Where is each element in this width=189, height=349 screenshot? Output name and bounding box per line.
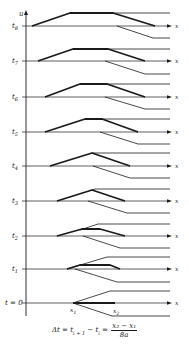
x-axis-arrow-icon (167, 301, 172, 305)
x-axis-arrow-icon (167, 130, 172, 134)
formula-lhs: Δt = t (52, 326, 73, 334)
time-step-formula: Δt = ti + 1 − ti = x₂ − x₁8a (0, 322, 189, 339)
time-label-row-5: t5 (12, 128, 18, 137)
time-label-row-2: t2 (12, 232, 18, 241)
formula-equals: = (100, 326, 110, 334)
x-axis-label: x (175, 162, 179, 169)
time-label-row-1: t1 (12, 265, 18, 274)
x-axis-arrow-icon (167, 59, 172, 63)
lower-characteristic-row-7 (105, 61, 170, 74)
time-label-row-8: t8 (12, 22, 18, 31)
time-label-row-3: t3 (12, 197, 18, 206)
wave-profile-row-8 (32, 13, 155, 26)
point-label-x1: x1 (70, 306, 76, 315)
time-label-row-6: t6 (12, 93, 19, 102)
formula-sub-i1: i + 1 (73, 330, 85, 336)
x-axis-label: x (175, 232, 179, 239)
u-axis-label: u (19, 10, 24, 18)
upper-characteristic-row-3 (92, 189, 170, 190)
wave-profile-row-7 (38, 49, 145, 61)
wave-profile-row-6 (45, 84, 145, 97)
x-axis-label: x (175, 197, 179, 204)
upper-characteristic-row-1 (67, 257, 170, 269)
time-label-row-4: t4 (12, 162, 18, 171)
formula-fraction: x₂ − x₁8a (111, 322, 137, 339)
lower-characteristic-row-0 (73, 303, 170, 316)
lower-characteristic-row-5 (100, 132, 170, 144)
lower-characteristic-row-8 (117, 26, 170, 38)
lower-characteristic-row-6 (105, 97, 170, 109)
formula-mid: − t (85, 326, 98, 334)
point-label-x2: x2 (113, 307, 119, 316)
x-axis-label: x (175, 299, 179, 306)
lower-characteristic-row-1 (75, 269, 170, 282)
x-axis-arrow-icon (167, 199, 172, 203)
wave-profile-row-1 (67, 265, 120, 269)
x-axis-arrow-icon (167, 234, 172, 238)
x-axis-label: x (175, 57, 179, 64)
x-axis-label: x (175, 128, 179, 135)
formula-denominator: 8a (111, 331, 137, 339)
characteristics-diagram: uxt8xt7xt6xt5xt4xt3xt2xt1xt = 0x1x2 (0, 0, 189, 349)
lower-characteristic-row-3 (88, 201, 170, 213)
wave-profile-row-4 (50, 153, 130, 166)
time-label-row-0: t = 0 (5, 299, 23, 307)
u-axis-arrow-icon (24, 10, 28, 15)
x-axis-label: x (175, 265, 179, 272)
upper-characteristic-row-0 (73, 291, 170, 303)
time-label-row-7: t7 (12, 57, 19, 66)
x-axis-arrow-icon (167, 267, 172, 271)
formula-numerator: x₂ − x₁ (111, 322, 137, 331)
wave-profile-row-3 (57, 190, 125, 201)
x-axis-label: x (175, 93, 179, 100)
x-axis-arrow-icon (167, 24, 172, 28)
x-axis-label: x (175, 22, 179, 29)
x-axis-arrow-icon (167, 164, 172, 168)
lower-characteristic-row-4 (93, 166, 170, 178)
lower-characteristic-row-2 (83, 236, 170, 248)
x-axis-arrow-icon (167, 95, 172, 99)
wave-profile-row-5 (45, 119, 138, 132)
wave-profile-row-2 (57, 229, 125, 236)
